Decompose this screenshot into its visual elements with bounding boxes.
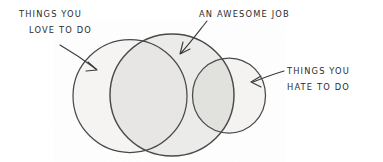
label-awesome-line1: AN AWESOME JOB bbox=[199, 9, 290, 19]
label-hate-line1: THINGS YOU bbox=[286, 66, 350, 76]
label-an-awesome-job: AN AWESOME JOB bbox=[199, 9, 290, 19]
label-things-you-love-to-do: THINGS YOU LOVE TO DO bbox=[18, 9, 92, 35]
label-hate-line2: HATE TO DO bbox=[287, 82, 350, 92]
label-things-you-hate-to-do: THINGS YOU HATE TO DO bbox=[286, 66, 350, 92]
venn-diagram-canvas: THINGS YOU LOVE TO DO AN AWESOME JOB THI… bbox=[0, 0, 383, 162]
label-love-line2: LOVE TO DO bbox=[29, 25, 92, 35]
venn-diagram-sketch: THINGS YOU LOVE TO DO AN AWESOME JOB THI… bbox=[0, 0, 383, 162]
label-love-line1: THINGS YOU bbox=[18, 9, 82, 19]
